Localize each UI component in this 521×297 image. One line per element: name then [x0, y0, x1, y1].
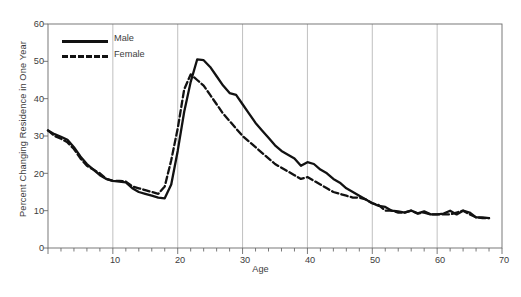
series-line-male [48, 59, 489, 218]
figure-root: Percent Changing Residence in One Year 6… [0, 0, 521, 297]
series-line-female [48, 74, 489, 218]
plot-area [0, 0, 521, 297]
line-chart: Percent Changing Residence in One Year 6… [0, 0, 521, 297]
legend-label-male: Male [114, 33, 134, 43]
legend-swatch-solid-line [62, 40, 108, 43]
x-axis-title: Age [0, 264, 521, 274]
legend-swatch-dashed-line [62, 55, 108, 58]
legend-label-female: Female [114, 49, 145, 59]
